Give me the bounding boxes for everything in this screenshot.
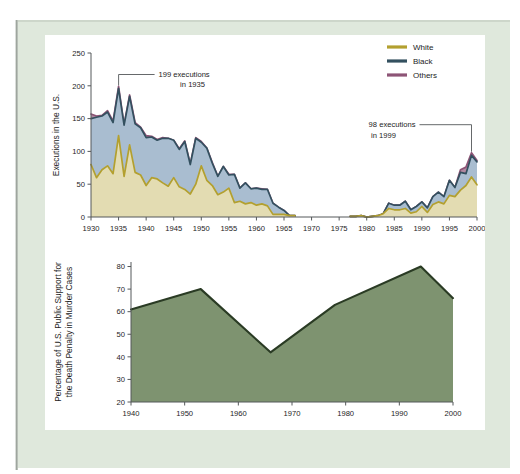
x-tick-label: 1975	[331, 224, 348, 233]
annotation-1935-line1: 199 executions	[159, 70, 210, 79]
annotation-leader-1935	[119, 75, 155, 86]
x-tick-label: 1960	[248, 224, 265, 233]
x-tick-label: 1950	[176, 409, 193, 418]
y-axis-title: Executions in the U.S.	[51, 94, 61, 176]
x-tick-label: 2000	[445, 409, 462, 418]
legend-label-black: Black	[413, 57, 434, 66]
annotation-1999-line2: in 1999	[371, 131, 396, 140]
y-tick-label: 70	[117, 285, 125, 294]
executions-legend: WhiteBlackOthers	[387, 43, 437, 80]
y-tick-label: 200	[72, 82, 85, 91]
public-support-chart: 2030405060708019401950196019701980199020…	[45, 250, 485, 435]
legend-label-white: White	[413, 43, 434, 52]
y-tick-label: 0	[81, 213, 85, 222]
public-support-chart-svg: 2030405060708019401950196019701980199020…	[45, 250, 485, 435]
support-area	[131, 267, 453, 402]
x-tick-label: 1980	[358, 224, 375, 233]
x-tick-label: 2000	[469, 224, 485, 233]
x-tick-label: 1940	[138, 224, 155, 233]
x-tick-label: 1950	[193, 224, 210, 233]
y-tick-label: 80	[117, 262, 125, 271]
y-axis-title-line2: the Death Penalty in Murder Cases	[64, 267, 74, 397]
annotation-1999-line1: 98 executions	[369, 120, 416, 129]
executions-chart-svg: 0501001502002501930193519401945195019551…	[45, 35, 485, 250]
y-axis-title-line1: Percentage of U.S. Public Support for	[53, 262, 63, 402]
y-tick-label: 50	[117, 330, 125, 339]
x-tick-label: 1995	[441, 224, 458, 233]
y-tick-label: 30	[117, 375, 125, 384]
x-tick-label: 1965	[276, 224, 293, 233]
x-tick-label: 1940	[123, 409, 140, 418]
executions-chart: 0501001502002501930193519401945195019551…	[45, 35, 485, 250]
x-tick-label: 1960	[230, 409, 247, 418]
x-tick-label: 1970	[303, 224, 320, 233]
y-tick-label: 150	[72, 114, 85, 123]
x-tick-label: 1945	[165, 224, 182, 233]
y-tick-label: 100	[72, 147, 85, 156]
x-tick-label: 1930	[83, 224, 100, 233]
x-tick-label: 1955	[220, 224, 237, 233]
x-tick-label: 1980	[337, 409, 354, 418]
y-tick-label: 40	[117, 353, 125, 362]
annotation-1935-line2: in 1935	[180, 80, 205, 89]
y-tick-label: 60	[117, 307, 125, 316]
x-tick-label: 1935	[110, 224, 127, 233]
y-tick-label: 50	[77, 180, 85, 189]
x-tick-label: 1970	[284, 409, 301, 418]
executions-areas	[91, 86, 477, 217]
x-tick-label: 1985	[386, 224, 403, 233]
y-tick-label: 20	[117, 398, 125, 407]
figure-card-top-edge	[18, 20, 510, 22]
x-tick-label: 1990	[413, 224, 430, 233]
legend-label-others: Others	[413, 71, 437, 80]
figure-root: 0501001502002501930193519401945195019551…	[0, 0, 520, 474]
annotation-leader-1999	[420, 125, 472, 152]
x-tick-label: 1990	[391, 409, 408, 418]
y-tick-label: 250	[72, 49, 85, 58]
